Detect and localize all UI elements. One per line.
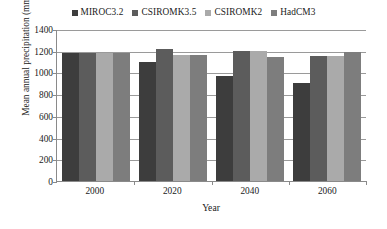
y-axis-tick-label: 400 (39, 134, 53, 144)
bar[interactable] (79, 53, 96, 181)
y-axis-tick-label: 1400 (34, 25, 53, 35)
bar[interactable] (156, 49, 173, 181)
bar[interactable] (250, 51, 267, 181)
legend-label: CSIROMK2 (214, 8, 262, 17)
x-axis-tick-mark (212, 181, 213, 185)
bar[interactable] (216, 76, 233, 181)
x-axis-tick-label: 2020 (134, 186, 212, 196)
x-axis-tick-label: 2040 (211, 186, 289, 196)
plot-wrapper: 0200400600800100012001400 (56, 30, 366, 182)
legend-item-hadcm3[interactable]: HadCM3 (271, 8, 315, 17)
y-axis-tick-label: 800 (39, 90, 53, 100)
bar[interactable] (293, 83, 310, 181)
bar-group-2040 (212, 30, 289, 181)
y-axis-tick-label: 200 (39, 155, 53, 165)
legend-label: MIROC3.2 (81, 8, 124, 17)
bar[interactable] (139, 62, 156, 181)
legend-swatch-icon (271, 10, 277, 16)
legend-item-miroc3-2[interactable]: MIROC3.2 (72, 8, 124, 17)
bar-groups (57, 30, 366, 181)
bar[interactable] (267, 57, 284, 181)
plot-area: 0200400600800100012001400 (56, 30, 366, 182)
x-axis-tick-mark (134, 181, 135, 185)
x-axis-tick-label: 2060 (289, 186, 367, 196)
bar[interactable] (344, 52, 361, 181)
bar[interactable] (310, 56, 327, 181)
y-axis-tick-label: 1200 (34, 47, 53, 57)
legend-swatch-icon (205, 10, 211, 16)
legend-label: CSIROMK3.5 (141, 8, 196, 17)
x-axis-tick-label: 2000 (56, 186, 134, 196)
legend-swatch-icon (72, 10, 78, 16)
bar-group-2000 (57, 30, 134, 181)
y-axis-tick-label: 0 (48, 177, 53, 187)
x-axis-tick-mark (289, 181, 290, 185)
chart-legend: MIROC3.2CSIROMK3.5CSIROMK2HadCM3 (0, 8, 387, 17)
legend-label: HadCM3 (280, 8, 315, 17)
bar-group-2060 (289, 30, 366, 181)
bar[interactable] (190, 55, 207, 181)
bar-chart: MIROC3.2CSIROMK3.5CSIROMK2HadCM3 Mean an… (0, 0, 387, 229)
y-axis-tick-label: 1000 (34, 68, 53, 78)
bar[interactable] (96, 53, 113, 181)
x-axis-tick-mark (366, 181, 367, 185)
bar[interactable] (233, 51, 250, 181)
bar[interactable] (173, 55, 190, 181)
bar[interactable] (327, 56, 344, 181)
y-axis-tick-label: 600 (39, 112, 53, 122)
bar[interactable] (113, 53, 130, 181)
legend-item-csiromk3-5[interactable]: CSIROMK3.5 (132, 8, 196, 17)
bar-group-2020 (134, 30, 211, 181)
y-axis-tick-mark (53, 182, 57, 183)
legend-swatch-icon (132, 10, 138, 16)
legend-item-csiromk2[interactable]: CSIROMK2 (205, 8, 262, 17)
x-axis-title: Year (56, 202, 366, 213)
bar[interactable] (62, 53, 79, 181)
y-axis-title: Mean annual precipitation (mm) (21, 0, 31, 135)
x-axis-tick-labels: 2000202020402060 (56, 186, 366, 196)
